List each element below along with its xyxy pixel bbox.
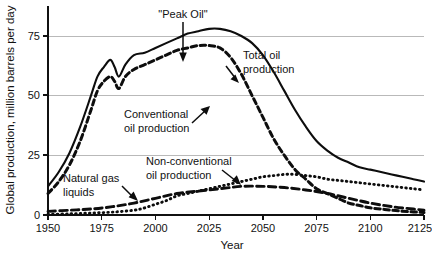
peak-oil-arrow-head [179,53,187,63]
y-tick-label-0: 0 [34,209,40,221]
annotation-total-oil-line2: production [243,63,294,75]
x-tick-label-2000: 2000 [143,222,167,234]
x-tick-label-1950: 1950 [36,222,60,234]
annotation-nonconventional-line2: oil production [146,169,211,181]
x-tick-label-1975: 1975 [89,222,113,234]
annotation-total-oil-line1: Total oil [243,49,280,61]
x-tick-label-2050: 2050 [251,222,275,234]
x-tick-labels: 1950 1975 2000 2025 2050 2075 2100 2125 [36,222,432,234]
chart-container: 75 50 25 0 1950 1975 2000 2025 2050 2075… [0,0,432,255]
annotation-conventional-line1: Conventional [124,108,188,120]
y-axis-title: Global production, million barrels per d… [4,5,16,214]
gridlines [48,36,424,155]
y-tick-label-75: 75 [28,30,40,42]
y-tick-labels: 75 50 25 0 [28,30,40,221]
data-series [48,29,424,215]
x-tick-label-2100: 2100 [358,222,382,234]
total-oil-arrow-head [231,75,240,83]
annotation-conventional-line2: oil production [124,122,189,134]
ngl-arrow-head [129,191,138,201]
oil-production-line-chart: 75 50 25 0 1950 1975 2000 2025 2050 2075… [0,0,432,255]
x-axis-title: Year [220,239,243,251]
x-tick-label-2125: 2125 [408,222,432,234]
x-tick-label-2025: 2025 [197,222,221,234]
annotation-nonconventional-line1: Non-conventional [146,155,232,167]
series-total-oil-production [48,29,424,187]
y-tick-label-50: 50 [28,89,40,101]
annotation-peak-oil: "Peak Oil" [158,8,207,20]
annotation-ngl-line1: Natural gas [63,172,120,184]
x-tick-label-2075: 2075 [304,222,328,234]
annotation-ngl-line2: liquids [63,186,95,198]
y-tick-label-25: 25 [28,149,40,161]
